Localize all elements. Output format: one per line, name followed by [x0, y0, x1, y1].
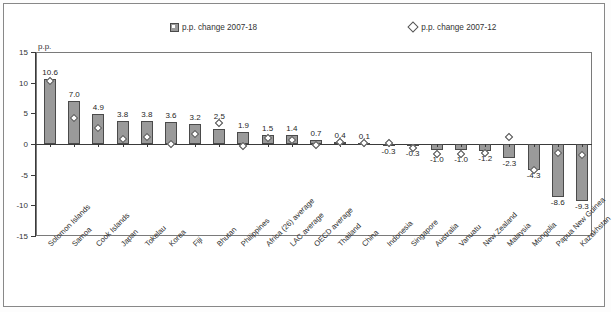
y-axis-tick-mark [31, 175, 36, 176]
x-axis-tick-mark [123, 144, 124, 147]
bar-value-label: 7.0 [60, 90, 88, 99]
y-axis-tick-mark [31, 144, 36, 145]
x-axis-tick-mark [461, 144, 462, 147]
legend-item-bars: p.p. change 2007-18 [170, 23, 257, 32]
y-axis-tick-label: 0 [2, 140, 28, 149]
x-axis-tick-mark [50, 144, 51, 147]
y-axis-tick-label: -5 [2, 170, 28, 179]
x-axis-tick-mark [98, 144, 99, 147]
y-axis-unit-label: p.p. [38, 42, 51, 51]
y-axis-tick-mark [31, 113, 36, 114]
y-axis-tick-label: -10 [2, 201, 28, 210]
plot-area [36, 52, 592, 236]
y-axis-tick-mark [31, 52, 36, 53]
x-axis-tick-mark [195, 144, 196, 147]
legend-diamond-swatch-icon [407, 21, 418, 32]
x-axis-tick-mark [509, 144, 510, 147]
x-axis-tick-mark [292, 144, 293, 147]
bar-value-label: -9.3 [568, 202, 596, 211]
bar-value-label: 2.5 [205, 112, 233, 121]
bar-value-label: 0.1 [350, 132, 378, 141]
bar [68, 101, 80, 144]
x-axis-tick-mark [485, 144, 486, 147]
bar-value-label: -4.3 [520, 171, 548, 180]
x-axis-tick-mark [558, 144, 559, 147]
y-axis-tick-label: -15 [2, 232, 28, 241]
x-axis-tick-mark [534, 144, 535, 147]
x-axis-tick-mark [437, 144, 438, 147]
y-axis-tick-mark [31, 205, 36, 206]
bar [44, 79, 56, 144]
legend-item-diamonds: p.p. change 2007-12 [409, 23, 496, 32]
bar [213, 129, 225, 144]
x-axis-tick-mark [74, 144, 75, 147]
legend-bar-swatch-icon [170, 23, 179, 32]
diamond-marker [505, 132, 513, 140]
y-axis-tick-mark [31, 236, 36, 237]
y-axis-tick-label: 10 [2, 78, 28, 87]
x-axis-tick-mark [582, 144, 583, 147]
legend-label-diamonds: p.p. change 2007-12 [421, 23, 496, 32]
chart-legend: p.p. change 2007-18 p.p. change 2007-12 [140, 18, 500, 36]
x-axis-tick-mark [147, 144, 148, 147]
legend-label-bars: p.p. change 2007-18 [182, 23, 257, 32]
y-axis-tick-label: 5 [2, 109, 28, 118]
y-axis-tick-label: 15 [2, 48, 28, 57]
x-axis-tick-mark [268, 144, 269, 147]
bar-value-label: 10.6 [36, 68, 64, 77]
x-axis-tick-mark [219, 144, 220, 147]
y-axis-tick-mark [31, 83, 36, 84]
bar-value-label: -2.3 [495, 159, 523, 168]
